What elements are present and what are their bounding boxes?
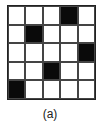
grid-cell-empty <box>60 80 77 99</box>
grid-cell-empty <box>8 62 25 81</box>
grid-cell-empty <box>78 62 95 81</box>
grid-cell-filled <box>60 6 77 25</box>
grid-cell-empty <box>60 43 77 62</box>
grid-cell-filled <box>8 80 25 99</box>
grid-cell-filled <box>25 25 42 44</box>
grid-cell-empty <box>25 80 42 99</box>
grid-cell-empty <box>8 43 25 62</box>
grid-cell-empty <box>43 25 60 44</box>
figure-caption: (a) <box>0 107 100 121</box>
grid-cell-empty <box>25 62 42 81</box>
grid-cell-filled <box>78 43 95 62</box>
grid-cell-empty <box>60 25 77 44</box>
grid-cell-empty <box>8 25 25 44</box>
grid-cell-empty <box>60 62 77 81</box>
grid-cell-empty <box>25 6 42 25</box>
permutation-grid <box>7 5 96 100</box>
grid-cell-empty <box>25 43 42 62</box>
grid-cell-empty <box>78 25 95 44</box>
grid-cell-empty <box>78 80 95 99</box>
grid-cell-filled <box>43 62 60 81</box>
grid-cell-empty <box>8 6 25 25</box>
grid-cell-empty <box>43 80 60 99</box>
grid-cell-empty <box>43 43 60 62</box>
grid-cell-empty <box>43 6 60 25</box>
grid-cell-empty <box>78 6 95 25</box>
